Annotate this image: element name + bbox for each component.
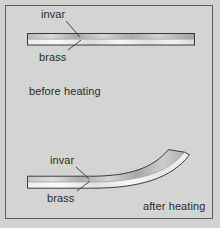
caption-before-heating: before heating bbox=[29, 85, 101, 97]
strip-before-invar-layer bbox=[28, 34, 195, 40]
caption-after-heating: after heating bbox=[143, 200, 205, 212]
strip-before-heating bbox=[28, 34, 195, 46]
label-invar-before: invar bbox=[41, 8, 65, 20]
label-brass-after: brass bbox=[47, 192, 74, 204]
strip-before-brass-layer bbox=[28, 39, 195, 45]
label-brass-before: brass bbox=[39, 51, 66, 63]
diagram-graphics bbox=[0, 0, 220, 228]
label-invar-after: invar bbox=[50, 154, 74, 166]
figure-container: invar brass before heating invar brass a… bbox=[0, 0, 220, 228]
